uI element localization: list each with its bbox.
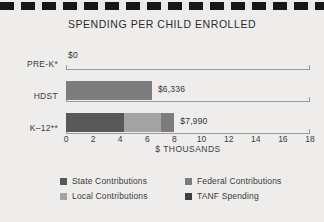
x-axis-label: $ THOUSANDS [66, 144, 310, 154]
x-tick-label: 4 [118, 134, 123, 144]
legend-label: Local Contributions [72, 191, 148, 201]
x-tick-label: 8 [172, 134, 177, 144]
x-tick-label: 6 [145, 134, 150, 144]
category-label: K–12** [0, 102, 58, 134]
legend-label: TANF Spending [197, 191, 259, 201]
x-tick-label: 14 [251, 134, 260, 144]
bar-value-label: $0 [68, 50, 78, 60]
legend-item[interactable]: Local Contributions [60, 191, 185, 201]
bar-segment[interactable] [66, 113, 124, 132]
legend-item[interactable]: Federal Contributions [185, 176, 310, 186]
legend-item[interactable]: TANF Spending [185, 191, 310, 201]
chart-legend: State ContributionsFederal Contributions… [60, 176, 310, 206]
x-tick-label: 12 [224, 134, 233, 144]
legend-label: Federal Contributions [197, 176, 281, 186]
stacked-bar[interactable] [66, 113, 174, 132]
stacked-bar[interactable] [66, 81, 152, 100]
chart-title: SPENDING PER CHILD ENROLLED [0, 18, 324, 30]
row-axis: $6,336 [66, 70, 310, 102]
x-tick-label: 2 [91, 134, 96, 144]
bar-segment[interactable] [161, 113, 175, 132]
decorative-dashed-band [0, 2, 324, 10]
chart-container: SPENDING PER CHILD ENROLLED PRE-K*$0HDST… [0, 10, 324, 222]
row-axis: $0 [66, 38, 310, 70]
legend-swatch-icon [60, 178, 67, 185]
bar-value-label: $6,336 [158, 84, 185, 94]
x-tick-label: 18 [305, 134, 314, 144]
row-axis: $7,990 [66, 102, 310, 134]
legend-label: State Contributions [72, 176, 147, 186]
chart-row: PRE-K*$0 [0, 38, 324, 70]
legend-swatch-icon [185, 193, 192, 200]
bar-segment[interactable] [66, 81, 152, 100]
bar-segment[interactable] [124, 113, 161, 132]
category-label: HDST [0, 70, 58, 102]
x-tick-label: 10 [197, 134, 206, 144]
category-label: PRE-K* [0, 38, 58, 70]
legend-swatch-icon [185, 178, 192, 185]
bar-value-label: $7,990 [180, 116, 207, 126]
x-tick-label: 0 [64, 134, 69, 144]
chart-row: HDST$6,336 [0, 70, 324, 102]
x-tick-label: 16 [278, 134, 287, 144]
chart-row: K–12**$7,990 [0, 102, 324, 134]
legend-swatch-icon [60, 193, 67, 200]
legend-item[interactable]: State Contributions [60, 176, 185, 186]
